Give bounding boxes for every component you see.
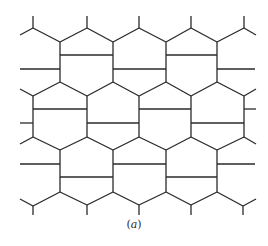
cell-wall-segment <box>87 137 113 150</box>
cell-wall-segment <box>139 28 166 42</box>
cell-wall-segment <box>139 82 166 96</box>
cell-wall-segment <box>60 28 87 42</box>
cell-wall-segment <box>166 137 191 150</box>
cell-wall-segment <box>191 82 217 96</box>
cell-wall-segment <box>166 28 191 42</box>
cell-wall-segment <box>113 192 139 205</box>
cell-wall-segment <box>191 192 217 205</box>
caption-close-paren: ) <box>137 218 141 231</box>
cell-wall-segment <box>60 192 87 205</box>
cell-wall-segment <box>33 192 60 206</box>
cell-wall-segment <box>87 82 113 96</box>
cell-wall-segment <box>33 137 60 150</box>
cell-wall-segment <box>60 137 87 150</box>
cell-wall-segment <box>217 82 244 96</box>
cell-wall-segment <box>139 137 166 150</box>
hexagonal-cell-network-diagram <box>0 0 268 246</box>
cell-wall-segment <box>20 89 33 96</box>
cell-wall-segment <box>166 82 191 96</box>
cell-wall-segment <box>20 28 33 35</box>
cell-wall-segment <box>113 82 139 96</box>
cell-wall-segment <box>217 192 243 206</box>
cell-wall-segment <box>244 28 256 35</box>
cell-wall-segment <box>244 89 256 96</box>
cell-wall-segment <box>60 82 87 96</box>
cell-wall-segment <box>191 28 217 42</box>
cell-wall-segment <box>87 28 113 42</box>
cell-wall-segment <box>217 28 244 42</box>
cell-wall-segment <box>20 199 33 206</box>
cell-wall-segment <box>191 137 217 150</box>
cell-wall-segment <box>20 137 33 144</box>
cell-wall-segment <box>217 137 244 150</box>
cell-wall-segment <box>113 28 139 42</box>
cell-wall-segment <box>87 192 113 205</box>
cell-wall-segment <box>166 192 191 205</box>
cell-wall-segment <box>113 137 139 150</box>
cell-wall-segment <box>33 82 60 96</box>
cell-wall-segment <box>139 192 166 205</box>
cell-walls <box>20 16 256 215</box>
cell-wall-segment <box>243 199 256 206</box>
cell-wall-segment <box>33 28 60 42</box>
cell-wall-segment <box>244 137 256 144</box>
figure-caption: (a) <box>0 218 268 231</box>
